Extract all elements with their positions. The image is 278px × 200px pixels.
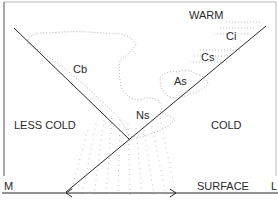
ns-label: Ns bbox=[136, 110, 149, 121]
diagram-graphics bbox=[0, 0, 278, 200]
cb-label: Cb bbox=[73, 64, 87, 75]
surface-label: SURFACE bbox=[197, 181, 249, 192]
occluded-front-diagram: WARM LESS COLD COLD Cb Ns As Cs Ci M SUR… bbox=[0, 0, 278, 200]
warm-label: WARM bbox=[189, 10, 223, 21]
surface-left-end-label: M bbox=[4, 181, 13, 192]
precipitation-dots bbox=[70, 118, 176, 195]
as-label: As bbox=[174, 76, 187, 87]
cold-label: COLD bbox=[211, 120, 242, 131]
warm-front-surface bbox=[66, 26, 266, 192]
ci-label: Ci bbox=[226, 31, 236, 42]
cs-label: Cs bbox=[201, 52, 214, 63]
less-cold-label: LESS COLD bbox=[14, 120, 76, 131]
surface-right-end-label: L bbox=[271, 181, 277, 192]
